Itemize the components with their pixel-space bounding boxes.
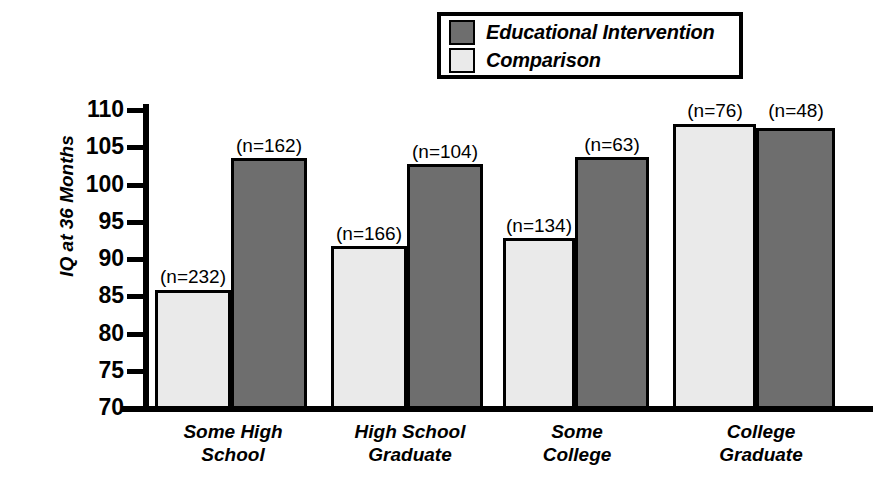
bar-n-label: (n=162) [221,136,317,155]
x-axis-category-label-3: College Graduate [686,420,836,466]
bar-comparison-group-3 [673,124,756,409]
x-axis-category-label-2: Some College [512,420,642,466]
bars-layer: (n=232)(n=162)(n=166)(n=104)(n=134)(n=63… [0,0,887,409]
x-axis-category-label-1: High School Graduate [332,420,488,466]
bar-n-label: (n=48) [752,101,840,120]
bar-n-label: (n=76) [671,101,759,120]
bar-intervention-group-0 [231,158,307,409]
bar-comparison-group-0 [155,290,231,409]
bar-n-label: (n=232) [145,267,241,286]
bar-intervention-group-1 [407,164,483,409]
bar-n-label: (n=166) [321,224,417,243]
bar-comparison-group-2 [503,238,575,409]
bar-intervention-group-3 [756,128,835,409]
bar-comparison-group-1 [331,246,407,409]
bar-n-label: (n=63) [568,135,656,154]
x-axis-category-label-0: Some High School [158,420,308,466]
bar-n-label: (n=104) [397,142,493,161]
bar-chart: Educational Intervention Comparison IQ a… [0,0,887,487]
bar-intervention-group-2 [575,157,649,409]
bar-n-label: (n=134) [491,216,587,235]
